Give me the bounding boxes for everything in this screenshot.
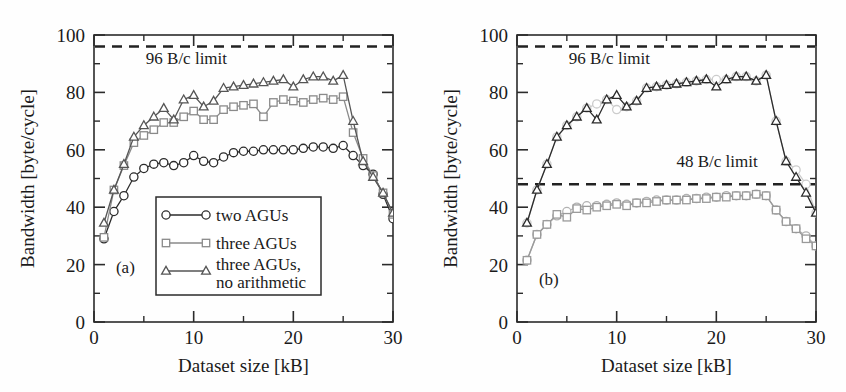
- legend-marker: [202, 211, 210, 219]
- tick-labels: 0204060801000102030: [57, 25, 403, 348]
- data-point: [713, 193, 720, 200]
- data-series-group: [523, 71, 821, 265]
- x-tick-label: 20: [707, 327, 726, 348]
- series-snb: [523, 190, 820, 264]
- data-point: [230, 103, 237, 110]
- series-bdw: [523, 71, 821, 227]
- data-point: [643, 199, 650, 206]
- data-point: [299, 144, 307, 152]
- data-point: [553, 211, 560, 218]
- data-point: [712, 82, 721, 90]
- data-point: [170, 161, 178, 169]
- data-point: [723, 193, 730, 200]
- data-point: [683, 196, 690, 203]
- data-point: [190, 151, 198, 159]
- tick-labels: 0204060801000102030: [480, 25, 826, 348]
- data-point: [623, 202, 630, 209]
- x-axis-title: Dataset size [kB]: [178, 355, 309, 376]
- data-point: [762, 192, 769, 199]
- data-point: [140, 164, 148, 172]
- data-point: [693, 195, 700, 202]
- x-axis-title: Dataset size [kB]: [601, 355, 732, 376]
- data-point: [269, 146, 277, 154]
- data-point: [583, 206, 590, 213]
- y-tick-label: 40: [489, 197, 508, 218]
- y-tick-label: 80: [66, 82, 85, 103]
- legend-marker: [202, 239, 209, 246]
- y-axis-title: Bandwidth [byte/cycle]: [440, 89, 461, 268]
- legend-label-line2: no arithmetic: [216, 273, 307, 292]
- legend-label: two AGUs: [216, 206, 288, 225]
- data-point: [249, 147, 257, 155]
- y-tick-label: 20: [489, 255, 508, 276]
- data-point: [160, 159, 168, 167]
- data-point: [792, 225, 799, 232]
- plot-svg-a: 0204060801000102030Dataset size [kB]Band…: [0, 0, 423, 392]
- x-tick-label: 20: [284, 327, 303, 348]
- x-tick-label: 0: [512, 327, 522, 348]
- data-point: [110, 207, 118, 215]
- data-point: [349, 151, 357, 159]
- axis-ticks: [517, 35, 816, 322]
- data-point: [329, 144, 337, 152]
- legend-a: two AGUsthree AGUsthree AGUs,no arithmet…: [156, 197, 321, 295]
- data-point: [229, 149, 237, 157]
- data-point: [289, 82, 298, 90]
- data-point: [300, 99, 307, 106]
- data-point: [279, 75, 288, 83]
- data-point: [159, 104, 168, 112]
- y-tick-label: 100: [480, 25, 509, 46]
- data-point: [280, 96, 287, 103]
- data-point: [290, 97, 297, 104]
- data-point: [309, 143, 317, 151]
- figure-two-panel-bandwidth-chart: 0204060801000102030Dataset size [kB]Band…: [0, 0, 846, 392]
- y-tick-label: 0: [499, 312, 509, 333]
- data-point: [593, 204, 600, 211]
- data-point: [673, 196, 680, 203]
- data-point: [319, 143, 327, 151]
- data-point: [100, 234, 107, 241]
- series-line: [527, 194, 816, 260]
- panel-label: (b): [539, 270, 559, 289]
- data-point: [772, 206, 779, 213]
- x-tick-label: 30: [807, 327, 826, 348]
- data-point: [289, 146, 297, 154]
- data-point: [663, 196, 670, 203]
- data-point: [220, 106, 227, 113]
- data-point: [339, 71, 348, 79]
- data-point: [330, 96, 337, 103]
- data-point: [543, 221, 550, 228]
- data-point: [310, 96, 317, 103]
- data-point: [210, 159, 218, 167]
- data-point: [603, 202, 610, 209]
- data-point: [309, 72, 318, 80]
- data-point: [573, 205, 580, 212]
- data-point: [270, 99, 277, 106]
- x-tick-label: 10: [184, 327, 203, 348]
- plot-frame: [517, 35, 816, 322]
- data-point: [613, 201, 620, 208]
- y-tick-label: 60: [489, 140, 508, 161]
- data-point: [120, 192, 128, 200]
- limit-annotation: 96 B/c limit: [146, 49, 228, 68]
- chart-panel-b: 0204060801000102030Dataset size [kB]Band…: [423, 0, 846, 392]
- y-tick-label: 0: [76, 312, 86, 333]
- y-tick-label: 20: [66, 255, 85, 276]
- data-point: [703, 195, 710, 202]
- data-point: [733, 192, 740, 199]
- data-point: [200, 157, 208, 165]
- data-point: [140, 132, 147, 139]
- data-point: [130, 173, 138, 181]
- data-point: [200, 116, 207, 123]
- data-point: [533, 231, 540, 238]
- y-axis-title: Bandwidth [byte/cycle]: [17, 89, 38, 268]
- data-point: [250, 100, 257, 107]
- y-tick-label: 100: [57, 25, 86, 46]
- data-point: [563, 214, 570, 221]
- x-tick-label: 10: [607, 327, 626, 348]
- limit-annotation: 48 B/c limit: [676, 152, 758, 171]
- limit-annotation: 96 B/c limit: [569, 49, 651, 68]
- data-point: [279, 146, 287, 154]
- data-point: [260, 113, 267, 120]
- data-point: [613, 106, 621, 114]
